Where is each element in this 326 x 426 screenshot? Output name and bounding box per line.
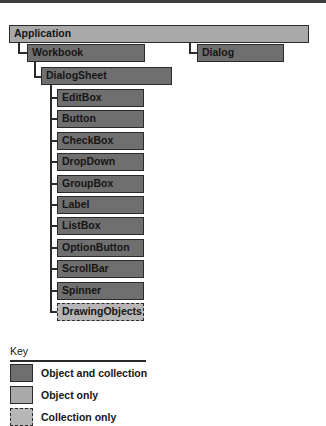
connector [50,140,57,142]
connector [189,52,197,54]
connector [34,62,36,77]
top-border [0,0,326,3]
node-editbox: EditBox [57,89,144,107]
key-swatch-object-and-collection [10,364,33,382]
connector [50,183,57,185]
node-optionbutton: OptionButton [57,239,144,257]
node-listbox: ListBox [57,217,144,235]
connector [50,161,57,163]
node-dropdown: DropDown [57,153,144,171]
key-label: Object only [41,386,98,404]
connector [50,97,57,99]
key-swatch-object-only [10,386,33,404]
connector [50,204,57,206]
connector [50,247,57,249]
key-divider [10,360,146,362]
connector [50,290,57,292]
node-label: Label [57,196,144,214]
connector [34,76,41,78]
node-button: Button [57,110,144,128]
connector [50,268,57,270]
node-groupbox: GroupBox [57,175,144,193]
connector [50,118,57,120]
node-dialog: Dialog [197,44,284,62]
connector [50,225,57,227]
node-workbook: Workbook [27,44,145,62]
key-label: Collection only [41,408,116,426]
node-scrollbar: ScrollBar [57,260,144,278]
node-checkbox: CheckBox [57,132,144,150]
node-dialogsheet: DialogSheet [41,67,172,85]
connector [50,311,57,313]
key-title: Key [10,345,28,357]
key-label: Object and collection [41,364,147,382]
node-drawingobjects: DrawingObjects [57,303,144,321]
node-spinner: Spinner [57,282,144,300]
key-swatch-collection-only [10,408,33,426]
node-application: Application [9,25,309,43]
connector [18,52,27,54]
